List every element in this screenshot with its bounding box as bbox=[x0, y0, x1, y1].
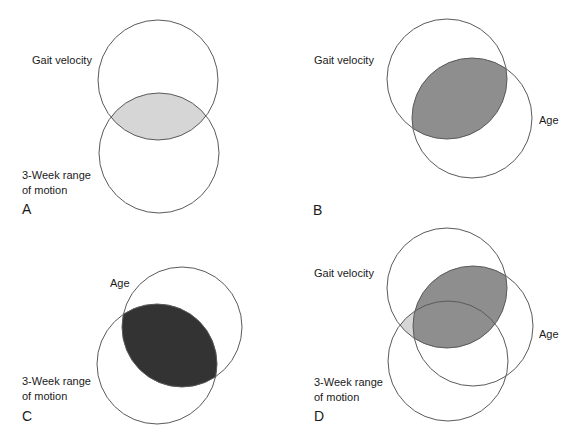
label-rom-line2: of motion bbox=[314, 390, 359, 404]
label-gait-velocity: Gait velocity bbox=[314, 53, 374, 67]
label-age: Age bbox=[539, 113, 559, 127]
panel-label-c: C bbox=[22, 408, 32, 424]
label-gait-velocity: Gait velocity bbox=[32, 53, 92, 67]
panel-label-d: D bbox=[314, 408, 324, 424]
panel-b bbox=[387, 19, 532, 178]
panel-a bbox=[98, 20, 219, 213]
label-rom-line1: 3-Week range bbox=[22, 374, 91, 388]
panel-d bbox=[387, 228, 533, 421]
label-rom-line2: of motion bbox=[22, 389, 67, 403]
label-rom-line2: of motion bbox=[22, 183, 67, 197]
panel-c bbox=[97, 267, 242, 424]
panel-label-a: A bbox=[22, 201, 31, 217]
overlap-age-rom bbox=[97, 304, 217, 424]
label-age: Age bbox=[110, 276, 130, 290]
label-gait-velocity: Gait velocity bbox=[314, 266, 374, 280]
label-rom-line1: 3-Week range bbox=[22, 168, 91, 182]
overlap-gait-rom bbox=[99, 93, 219, 213]
overlap-gait-age bbox=[412, 58, 532, 178]
panel-label-b: B bbox=[313, 202, 322, 218]
label-age: Age bbox=[539, 327, 559, 341]
label-rom-line1: 3-Week range bbox=[314, 375, 383, 389]
venn-figure: Gait velocity 3-Week range of motion A G… bbox=[0, 0, 576, 445]
overlap-gait-age bbox=[413, 266, 533, 386]
